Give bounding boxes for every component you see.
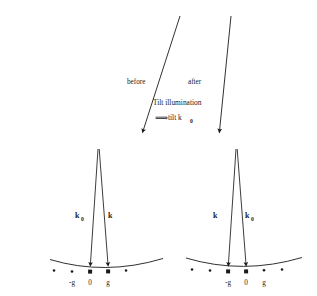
lattice-dot-highlight (106, 269, 110, 273)
ewald-sphere-diagram: before after Tilt illumination ⟹ tilt k … (0, 0, 317, 296)
tilt-k0-text: tilt k (168, 113, 182, 122)
k0-label-right-symbol: k (245, 211, 250, 220)
k0-label-right-subscript: 0 (251, 216, 254, 222)
k0-vector-left (90, 149, 98, 265)
k-label-right: k (213, 211, 218, 220)
lattice-dot (191, 268, 194, 271)
lattice-dots-left (53, 269, 128, 273)
figure-root: before after Tilt illumination ⟹ tilt k … (0, 0, 317, 296)
before-label: before (127, 78, 145, 86)
k0-label-left-subscript: 0 (81, 216, 84, 222)
axis-label-g-right: g (262, 279, 266, 287)
lattice-dot (263, 269, 266, 272)
tilt-illumination-caption: Tilt illumination (153, 98, 202, 107)
ewald-sphere-arc-left (50, 259, 163, 268)
k-vector-left (99, 149, 108, 265)
axis-label-g-left: g (106, 279, 110, 287)
k0-label-right: k 0 (245, 211, 254, 222)
axis-label-zero-right: 0 (244, 279, 248, 287)
after-panel: k k 0 -g 0 g (186, 149, 302, 287)
lattice-dots-right (191, 268, 284, 273)
before-panel: k 0 k -g 0 g (50, 149, 163, 287)
tilt-k0-subscript: 0 (190, 118, 193, 124)
k0-vector-right (237, 149, 246, 265)
axis-label-minus-g-left: -g (69, 279, 75, 287)
lattice-dot (71, 270, 74, 273)
axis-label-zero-left: 0 (88, 279, 92, 287)
tilt-k0-caption: ⟹ tilt k 0 (155, 113, 193, 124)
implies-arrow-icon: ⟹ (155, 113, 168, 123)
after-arrow (220, 16, 232, 131)
k-label-left: k (108, 211, 113, 220)
lattice-dot-highlight (226, 269, 230, 273)
lattice-dot (125, 269, 128, 272)
lattice-dot-highlight (244, 269, 248, 273)
after-label: after (188, 78, 202, 86)
k-vector-right (228, 149, 236, 265)
lattice-dot (209, 269, 212, 272)
ewald-sphere-arc-right (186, 258, 302, 267)
k0-label-left-symbol: k (75, 211, 80, 220)
lattice-dot (281, 268, 284, 271)
lattice-dot-highlight (88, 270, 92, 274)
axis-label-minus-g-right: -g (225, 279, 231, 287)
k0-label-left: k 0 (75, 211, 84, 222)
lattice-dot (53, 269, 56, 272)
